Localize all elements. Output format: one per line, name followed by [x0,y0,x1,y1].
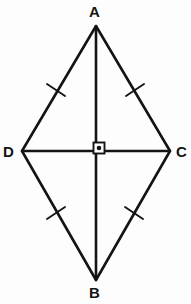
vertex-label-a: A [89,4,100,19]
right-angle-marker [94,143,105,154]
right-angle-center-dot-icon [97,146,102,151]
vertex-label-c: C [176,144,187,159]
vertex-label-b: B [89,285,100,300]
side-CB [96,151,170,280]
vertex-label-d: D [3,144,14,159]
side-AC [96,26,170,151]
side-DB [22,151,96,280]
tick-mark-side-CB [125,207,143,219]
rhombus-diagram-svg [0,0,191,304]
geometry-figure-canvas: A C B D [0,0,191,304]
side-AD [22,26,96,151]
